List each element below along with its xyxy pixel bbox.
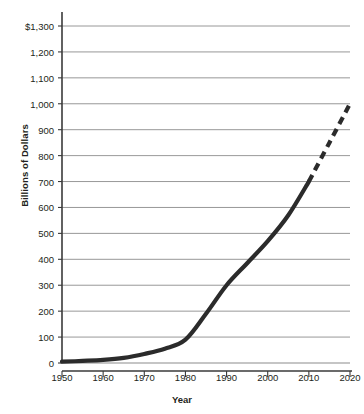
data-series-group (62, 104, 350, 362)
y-tick-label: 0 (8, 358, 54, 369)
y-tick-label: $1,300 (8, 21, 54, 32)
y-tick-label: 600 (8, 202, 54, 213)
series-line-actual (62, 182, 309, 362)
series-line-projected (309, 104, 350, 182)
y-tick-label: 100 (8, 332, 54, 343)
y-tick-label: 1,100 (8, 72, 54, 83)
x-tick-label: 1980 (165, 372, 205, 383)
x-tick-label: 1970 (124, 372, 164, 383)
y-tick-label: 1,200 (8, 46, 54, 57)
x-tick-label: 2020 (330, 372, 364, 383)
axis-lines-group (62, 12, 352, 371)
x-tick-label: 2000 (248, 372, 288, 383)
y-tick-label: 800 (8, 150, 54, 161)
chart-canvas (0, 0, 364, 414)
y-tick-label: 500 (8, 228, 54, 239)
y-tick-label: 700 (8, 176, 54, 187)
y-tick-label: 400 (8, 254, 54, 265)
y-tick-label: 200 (8, 306, 54, 317)
x-tick-label: 2010 (289, 372, 329, 383)
y-tick-label: 300 (8, 280, 54, 291)
plot-area: 01002003004005006007008009001,0001,1001,… (0, 0, 364, 414)
y-tick-label: 900 (8, 124, 54, 135)
x-tick-label: 1990 (207, 372, 247, 383)
y-tick-label: 1,000 (8, 98, 54, 109)
x-tick-label: 1950 (42, 372, 82, 383)
x-tick-label: 1960 (83, 372, 123, 383)
line-chart: Billions of Dollars Year 010020030040050… (0, 0, 364, 414)
